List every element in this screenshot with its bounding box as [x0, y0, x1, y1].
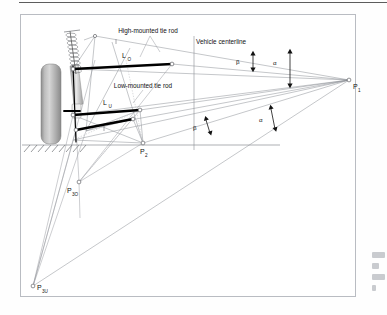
margin-text-line: [372, 263, 379, 269]
svg-text:β: β: [236, 58, 240, 65]
caption-leaders: [133, 36, 160, 103]
angle-beta-lower: β: [193, 116, 212, 136]
upper-tie-rod: [73, 64, 172, 69]
angle-beta-upper: β: [236, 51, 256, 72]
point-label-p2: P 2: [140, 148, 148, 158]
point-label-p3u: P 3U: [37, 284, 48, 294]
ground-line: [22, 145, 280, 152]
caption-low-tie-rod: Low-mounted tie rod: [114, 82, 173, 89]
upper-construction-rays: [73, 36, 349, 143]
margin-text-line: [372, 274, 385, 280]
ground-hatching: [24, 145, 86, 152]
svg-text:β: β: [193, 124, 197, 131]
label-lower-rod-length: L U: [103, 99, 112, 109]
margin-text-line: [372, 252, 385, 258]
svg-text:L: L: [103, 99, 107, 106]
caption-high-tie-rod: High-mounted tie rod: [118, 27, 178, 35]
page-margin-clipped-text: [372, 252, 387, 312]
point-label-p3o: P 3O: [67, 187, 79, 197]
point-label-p1: P 1: [353, 83, 361, 93]
margin-text-line: [372, 285, 376, 291]
svg-text:1: 1: [358, 88, 361, 93]
svg-text:L: L: [122, 52, 126, 59]
tire: [41, 64, 61, 144]
svg-text:α: α: [259, 116, 263, 123]
svg-text:3O: 3O: [72, 192, 79, 197]
svg-text:2: 2: [145, 153, 148, 158]
svg-text:α: α: [273, 59, 277, 66]
svg-text:O: O: [128, 57, 132, 62]
angle-alpha-lower: α: [259, 105, 277, 132]
svg-text:3U: 3U: [42, 289, 48, 294]
steering-geometry-diagram: High-mounted tie rod Low-mounted tie rod…: [0, 0, 387, 315]
page-background: High-mounted tie rod Low-mounted tie rod…: [0, 0, 387, 315]
caption-vehicle-centerline: Vehicle centerline: [196, 38, 247, 45]
svg-text:U: U: [109, 104, 112, 109]
